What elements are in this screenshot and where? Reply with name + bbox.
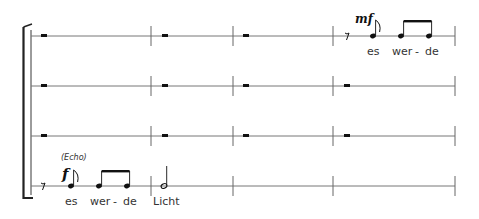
staff4-m1-notes <box>41 170 131 190</box>
lyric-hyphen: - <box>415 45 419 58</box>
dynamic-mf: mf <box>355 12 373 26</box>
dynamic-f: f <box>62 165 68 183</box>
lyric-wer: wer <box>392 45 412 58</box>
lyric-hyphen: - <box>113 195 117 208</box>
lyric-de: de <box>425 45 439 58</box>
echo-annotation: (Echo) <box>61 153 87 162</box>
lyric-es: es <box>65 195 78 208</box>
staff-lines <box>31 36 455 186</box>
lyric-es: es <box>367 45 380 58</box>
system-bracket <box>24 24 34 198</box>
lyric-licht: Licht <box>153 195 180 208</box>
lyric-de: de <box>123 195 137 208</box>
score-canvas <box>0 0 479 219</box>
lyric-wer: wer <box>90 195 110 208</box>
